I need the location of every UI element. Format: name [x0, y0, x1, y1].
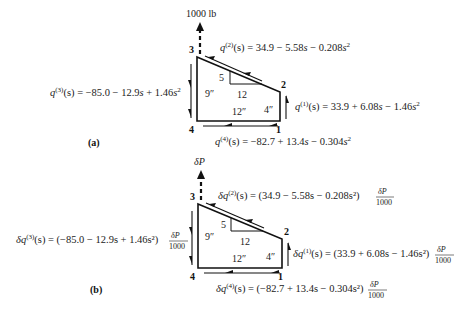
node-3: 3 [189, 44, 194, 55]
arrow-down-icon [188, 80, 191, 88]
slope-run-label: 12 [237, 89, 247, 100]
dim-left-label: 9″ [205, 231, 214, 242]
panel-label-a: (a) [88, 137, 100, 149]
svg-text:1000: 1000 [435, 256, 451, 265]
dim-right-label: 4″ [264, 104, 273, 115]
load-label: δP [194, 156, 205, 167]
slope-run-label: 12 [240, 236, 250, 247]
node-2: 2 [281, 79, 286, 90]
arrow-up-icon [196, 22, 204, 31]
svg-text:1000: 1000 [368, 291, 384, 300]
svg-text:δP: δP [437, 245, 446, 254]
svg-text:1000: 1000 [376, 198, 392, 207]
node-4: 4 [190, 271, 195, 282]
node-1: 1 [278, 271, 283, 282]
panel-b: δP 5 12 9″ 12″ 4″ 3 2 1 4 δq(2)(s) = (34… [16, 156, 454, 300]
equation-dq4: δq(4)(s) = (−82.7 + 13.4s − 0.304s²) δP … [216, 280, 387, 300]
node-4: 4 [189, 124, 194, 135]
flow-arrow-q2 [205, 56, 262, 81]
dim-bottom-label: 12″ [232, 253, 246, 264]
dim-left-label: 9″ [205, 88, 214, 99]
arrow-down-icon [188, 109, 191, 117]
node-1: 1 [276, 124, 281, 135]
panel-label-b: (b) [90, 284, 102, 296]
equation-dq3: δq(3)(s) = (−85.0 − 12.9s + 1.46s²) δP 1… [16, 231, 188, 251]
arrow-down-icon [189, 256, 192, 264]
node-3: 3 [190, 191, 195, 202]
slope-rise-label: 5 [219, 72, 224, 83]
equation-dq2: δq(2)(s) = (34.9 − 5.58s − 0.208s²) δP 1… [218, 187, 394, 207]
dim-right-label: 4″ [266, 251, 275, 262]
svg-text:1000: 1000 [169, 242, 185, 251]
equation-q1: q(1)(s) = 33.9 + 6.08s − 1.46s2 [295, 100, 420, 113]
shear-flow-diagram: 1000 lb 5 12 9″ 12″ 4″ 3 2 1 4 q(2)(s) =… [0, 0, 464, 313]
dim-bottom-label: 12″ [232, 106, 246, 117]
svg-text:δP: δP [378, 187, 387, 196]
svg-text:δP: δP [370, 280, 379, 289]
svg-text:δq(1)(s) = (33.9 + 6.08s − 1.4: δq(1)(s) = (33.9 + 6.08s − 1.46s²) [293, 247, 430, 260]
panel-a: 1000 lb 5 12 9″ 12″ 4″ 3 2 1 4 q(2)(s) =… [50, 8, 420, 149]
equation-q4: q(4)(s) = −82.7 + 13.4s − 0.304s2 [215, 135, 352, 148]
load-label: 1000 lb [186, 8, 216, 19]
svg-text:δq(2)(s) = (34.9 − 5.58s − 0.2: δq(2)(s) = (34.9 − 5.58s − 0.208s²) [218, 189, 360, 202]
flow-arrow-q2 [206, 203, 264, 228]
svg-text:δq(4)(s) = (−82.7 + 13.4s − 0.: δq(4)(s) = (−82.7 + 13.4s − 0.304s²) [216, 282, 364, 295]
node-2: 2 [284, 226, 289, 237]
svg-text:δq(3)(s) = (−85.0 − 12.9s + 1.: δq(3)(s) = (−85.0 − 12.9s + 1.46s²) [16, 233, 159, 246]
svg-text:δP: δP [171, 231, 180, 240]
arrow-up-icon [197, 170, 205, 179]
equation-q3: q(3)(s) = −85.0 − 12.9s + 1.46s2 [50, 86, 181, 99]
arrow-right-icon [224, 123, 232, 126]
equation-dq1: δq(1)(s) = (33.9 + 6.08s − 1.46s²) δP 10… [293, 245, 454, 265]
slope-rise-label: 5 [221, 219, 226, 230]
arrow-down-icon [189, 227, 192, 235]
equation-q2: q(2)(s) = 34.9 − 5.58s − 0.208s2 [220, 41, 351, 54]
